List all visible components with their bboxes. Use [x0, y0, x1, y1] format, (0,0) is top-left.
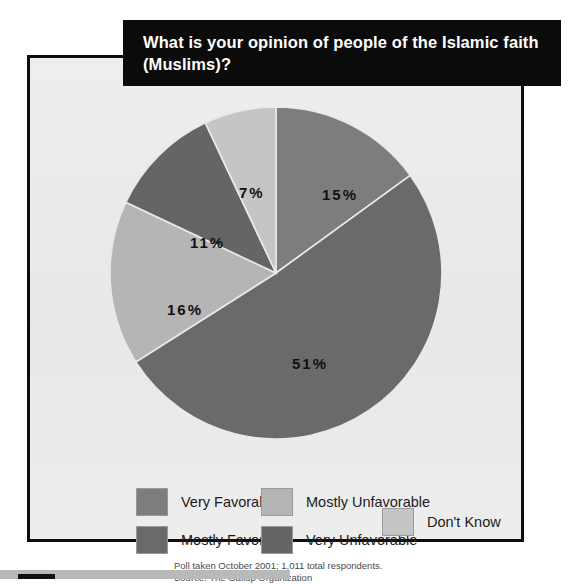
question-title-line-2: (Muslims)?: [143, 53, 543, 75]
chart-legend: Very Favorable Mostly Favorable Mostly U…: [30, 58, 521, 539]
chart-panel: 15% 51% 16% 11% 7% Very Favorable Mostly…: [27, 55, 524, 542]
legend-swatch-icon: [136, 488, 168, 516]
question-title-line-1: What is your opinion of people of the Is…: [143, 31, 543, 53]
legend-item-very-favorable: Very Favorable: [136, 488, 279, 516]
legend-swatch-icon: [382, 508, 414, 536]
page-bottom-strip-block: [18, 574, 55, 579]
question-banner: What is your opinion of people of the Is…: [123, 20, 561, 86]
legend-item-dont-know: Don't Know: [382, 508, 501, 536]
legend-swatch-icon: [261, 488, 293, 516]
legend-swatch-icon: [136, 526, 168, 554]
legend-item-label: Don't Know: [427, 514, 501, 530]
legend-swatch-icon: [261, 526, 293, 554]
